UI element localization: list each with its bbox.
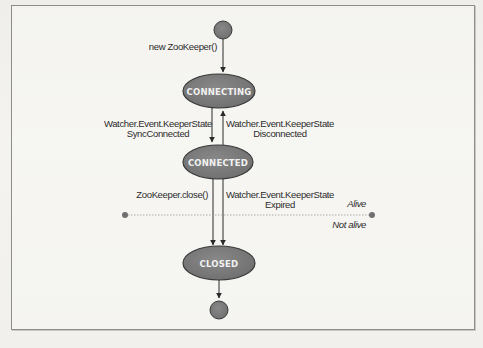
edge-label-zookeeper-close: ZooKeeper.close() bbox=[136, 189, 208, 200]
not-alive-label: Not alive bbox=[332, 219, 366, 230]
divider-left-dot bbox=[122, 212, 128, 218]
alive-divider bbox=[122, 212, 375, 218]
state-closed-label: CLOSED bbox=[200, 259, 239, 269]
final-state-node bbox=[210, 301, 228, 319]
divider-right-dot bbox=[369, 212, 375, 218]
state-closed: CLOSED bbox=[183, 246, 255, 280]
edge-label-syncconnected-line2: SyncConnected bbox=[127, 128, 190, 139]
state-diagram: new ZooKeeper() CONNECTING Watcher.Event… bbox=[0, 0, 483, 348]
state-connected: CONNECTED bbox=[183, 145, 253, 179]
state-connecting: CONNECTING bbox=[183, 74, 255, 108]
edge-label-disconnected-line2: Disconnected bbox=[253, 128, 306, 139]
edge-label-new-zookeeper: new ZooKeeper() bbox=[149, 41, 217, 52]
edge-label-expired-line2: Expired bbox=[265, 199, 295, 210]
state-connected-label: CONNECTED bbox=[188, 158, 248, 168]
initial-state-node bbox=[214, 21, 232, 39]
alive-label: Alive bbox=[346, 198, 366, 209]
state-connecting-label: CONNECTING bbox=[187, 87, 252, 97]
